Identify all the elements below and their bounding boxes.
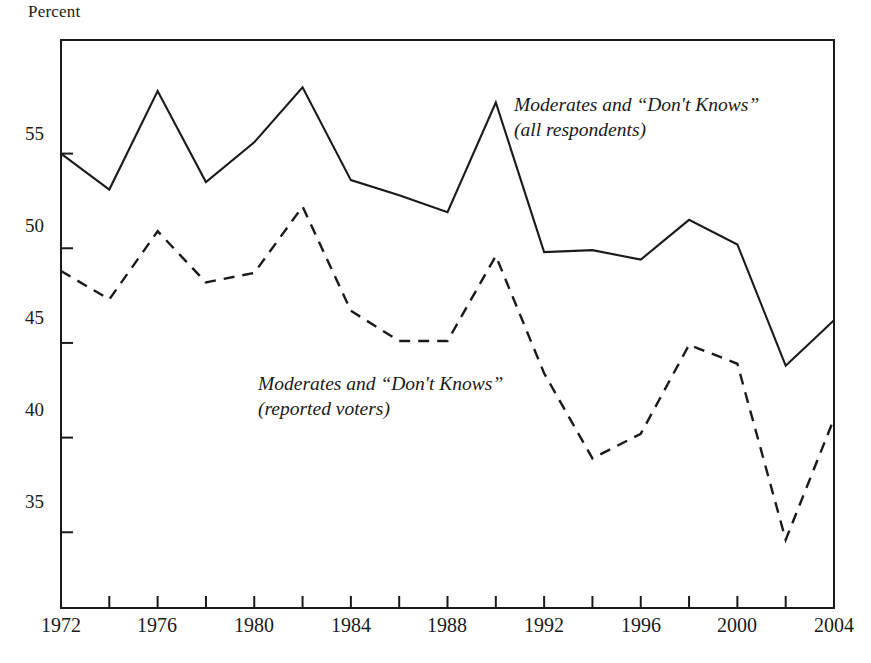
x-tick-label-1980: 1980 (219, 614, 289, 637)
annotation-reported-voters-line2: (reported voters) (258, 397, 503, 422)
annotation-all-respondents-line1: Moderates and “Don't Knows” (514, 93, 759, 118)
annotation-all-respondents-line2: (all respondents) (514, 118, 759, 143)
annotation-reported-voters: Moderates and “Don't Knows” (reported vo… (258, 372, 503, 422)
x-axis-ticks (61, 596, 834, 608)
x-tick-label-2000: 2000 (702, 614, 772, 637)
annotation-reported-voters-line1: Moderates and “Don't Knows” (258, 372, 503, 397)
x-tick-label-1976: 1976 (122, 614, 192, 637)
y-tick-label-55: 55 (0, 123, 44, 145)
x-tick-label-1996: 1996 (606, 614, 676, 637)
y-tick-label-50: 50 (0, 215, 44, 237)
chart-figure: Percent 55 50 45 40 35 1972 1976 1980 19… (0, 0, 871, 663)
y-axis-title: Percent (28, 2, 80, 22)
y-axis-ticks (61, 154, 73, 533)
y-tick-label-35: 35 (0, 491, 44, 513)
y-tick-label-40: 40 (0, 399, 44, 421)
x-tick-label-1984: 1984 (316, 614, 386, 637)
y-tick-label-45: 45 (0, 307, 44, 329)
x-tick-label-1992: 1992 (509, 614, 579, 637)
x-tick-label-1988: 1988 (412, 614, 482, 637)
annotation-all-respondents: Moderates and “Don't Knows” (all respond… (514, 93, 759, 143)
x-tick-label-1972: 1972 (26, 614, 96, 637)
x-tick-label-2004: 2004 (799, 614, 869, 637)
